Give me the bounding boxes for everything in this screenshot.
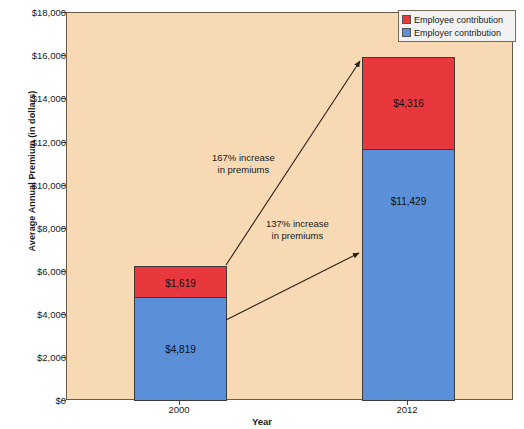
bar-2000-employer-label: $4,819 (165, 344, 196, 355)
bar-2000-employee-segment[interactable]: $1,619 (134, 266, 227, 301)
annotation-167-line1: 167% increase (212, 152, 275, 164)
y-tick-label: $16,000 (8, 50, 66, 61)
y-tick-label: $4,000 (8, 309, 66, 320)
x-axis-title: Year (0, 416, 524, 427)
bar-2012-employee-label: $4,316 (393, 98, 424, 109)
legend-swatch-employer-icon (402, 28, 411, 37)
y-tick-label: $10,000 (8, 180, 66, 191)
y-tick-label: $18,000 (8, 7, 66, 18)
y-tick-label: $12,000 (8, 137, 66, 148)
annotation-137-line2: in premiums (266, 230, 329, 242)
annotation-137-increase: 137% increase in premiums (266, 218, 329, 242)
legend-swatch-employee-icon (402, 15, 411, 24)
y-axis: $18,000 $16,000 $14,000 $12,000 $10,000 … (0, 0, 66, 429)
bar-2000-employee-label: $1,619 (165, 278, 196, 289)
legend-item-employer[interactable]: Employer contribution (402, 26, 512, 39)
legend-label-employer: Employer contribution (414, 28, 501, 38)
stacked-bar-chart: Average Annual Premium (in dollars) $18,… (0, 0, 524, 429)
y-tick-label: $8,000 (8, 223, 66, 234)
annotation-167-line2: in premiums (212, 164, 275, 176)
y-tick-label: $14,000 (8, 93, 66, 104)
x-tick-label-2000: 2000 (168, 404, 189, 415)
legend[interactable]: Employee contribution Employer contribut… (398, 10, 516, 42)
bar-2012-employer-label: $11,429 (391, 196, 426, 207)
annotation-137-line1: 137% increase (266, 218, 329, 230)
y-tick-label: $0 (8, 395, 66, 406)
y-tick-label: $6,000 (8, 266, 66, 277)
plot-area: $1,619 $4,819 $4,316 $11,429 (66, 12, 513, 400)
x-tick-label-2012: 2012 (396, 404, 417, 415)
bar-2012-employer-segment[interactable]: $11,429 (362, 149, 455, 401)
legend-item-employee[interactable]: Employee contribution (402, 13, 512, 26)
bar-2000-employer-segment[interactable]: $4,819 (134, 297, 227, 401)
y-tick-mark (61, 400, 66, 401)
bar-2012-employee-segment[interactable]: $4,316 (362, 57, 455, 150)
annotation-167-increase: 167% increase in premiums (212, 152, 275, 176)
y-tick-label: $2,000 (8, 352, 66, 363)
legend-label-employee: Employee contribution (414, 15, 503, 25)
